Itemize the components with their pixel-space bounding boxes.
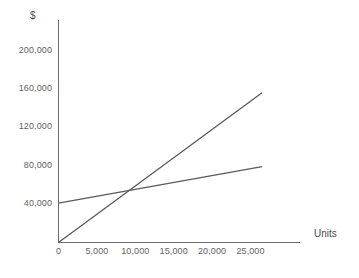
break-even-chart: $ Units 40,00080,000120,000160,000200,00… [0,0,359,278]
revenue-line [59,93,263,243]
total-cost-line [59,167,263,203]
y-tick-label: 200,000 [0,45,52,55]
x-tick-label: 25,000 [221,246,281,256]
y-tick-label: 40,000 [0,198,52,208]
y-axis-title: $ [30,10,36,21]
y-tick-label: 160,000 [0,83,52,93]
x-axis-title: Units [314,228,337,239]
chart-plot-area [0,0,359,278]
y-tick-label: 80,000 [0,160,52,170]
y-tick-label: 120,000 [0,121,52,131]
